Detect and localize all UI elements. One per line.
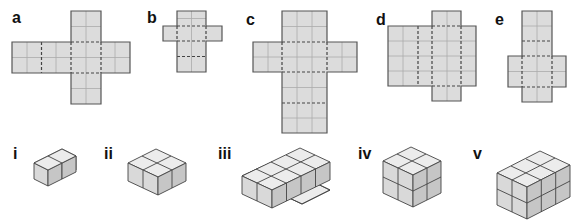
net-e [508,11,566,102]
solid-ii [128,149,186,195]
net-a [12,11,130,104]
solid-iv [383,147,441,207]
net-c [253,11,357,133]
solid-iii [242,148,333,208]
solid-v [497,151,570,219]
net-b [163,11,222,72]
diagram-canvas [0,0,574,221]
solid-i [34,149,76,186]
net-d [388,11,476,101]
